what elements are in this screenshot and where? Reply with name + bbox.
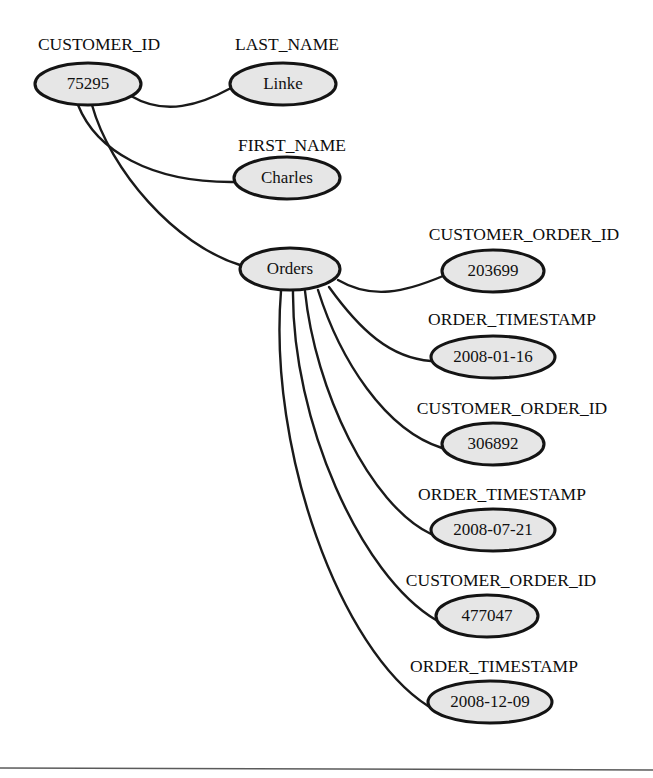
- node-order_2_ts[interactable]: ORDER_TIMESTAMP2008-07-21: [418, 484, 586, 551]
- node-order_3_id[interactable]: CUSTOMER_ORDER_ID477047: [406, 570, 596, 637]
- field-label-order_2_id: CUSTOMER_ORDER_ID: [417, 398, 607, 418]
- node-value-orders: Orders: [267, 259, 313, 278]
- node-value-customer_id: 75295: [67, 74, 110, 93]
- edge-customer-firstname: [78, 105, 235, 182]
- node-order_3_ts[interactable]: ORDER_TIMESTAMP2008-12-09: [410, 656, 578, 723]
- field-label-order_1_id: CUSTOMER_ORDER_ID: [429, 224, 619, 244]
- node-orders[interactable]: Orders: [240, 248, 340, 290]
- node-customer_id[interactable]: CUSTOMER_ID75295: [35, 34, 160, 105]
- customer-order-tree-diagram: CUSTOMER_ID75295LAST_NAMELinkeFIRST_NAME…: [0, 0, 653, 778]
- node-value-first_name: Charles: [261, 168, 313, 187]
- edge-orders-order3-ts: [279, 291, 428, 706]
- field-label-order_3_id: CUSTOMER_ORDER_ID: [406, 570, 596, 590]
- node-value-order_2_id: 306892: [468, 434, 519, 453]
- edge-orders-order2-id: [318, 290, 442, 448]
- field-label-order_3_ts: ORDER_TIMESTAMP: [410, 656, 578, 676]
- node-value-order_3_ts: 2008-12-09: [450, 692, 529, 711]
- node-value-order_3_id: 477047: [462, 606, 514, 625]
- node-order_1_id[interactable]: CUSTOMER_ORDER_ID203699: [429, 224, 619, 292]
- node-value-order_1_id: 203699: [468, 261, 519, 280]
- bottom-divider: [0, 768, 653, 770]
- field-label-order_1_ts: ORDER_TIMESTAMP: [428, 309, 596, 329]
- node-order_2_id[interactable]: CUSTOMER_ORDER_ID306892: [417, 398, 607, 465]
- field-label-order_2_ts: ORDER_TIMESTAMP: [418, 484, 586, 504]
- node-first_name[interactable]: FIRST_NAMECharles: [234, 135, 346, 199]
- node-last_name[interactable]: LAST_NAMELinke: [230, 34, 339, 105]
- node-value-order_2_ts: 2008-07-21: [453, 520, 532, 539]
- diagram-page: CUSTOMER_ID75295LAST_NAMELinkeFIRST_NAME…: [0, 0, 653, 778]
- node-order_1_ts[interactable]: ORDER_TIMESTAMP2008-01-16: [428, 309, 596, 378]
- edge-customer-orders: [92, 105, 240, 265]
- node-value-last_name: Linke: [263, 74, 303, 93]
- edge-orders-order1-id: [338, 276, 443, 292]
- node-layer: CUSTOMER_ID75295LAST_NAMELinkeFIRST_NAME…: [35, 34, 619, 723]
- node-value-order_1_ts: 2008-01-16: [453, 347, 532, 366]
- edge-orders-order2-ts: [305, 291, 431, 534]
- edge-customer-lastname: [131, 88, 231, 107]
- edge-orders-order1-ts: [329, 287, 431, 361]
- field-label-customer_id: CUSTOMER_ID: [38, 34, 160, 54]
- field-label-last_name: LAST_NAME: [235, 34, 339, 54]
- field-label-first_name: FIRST_NAME: [238, 135, 346, 155]
